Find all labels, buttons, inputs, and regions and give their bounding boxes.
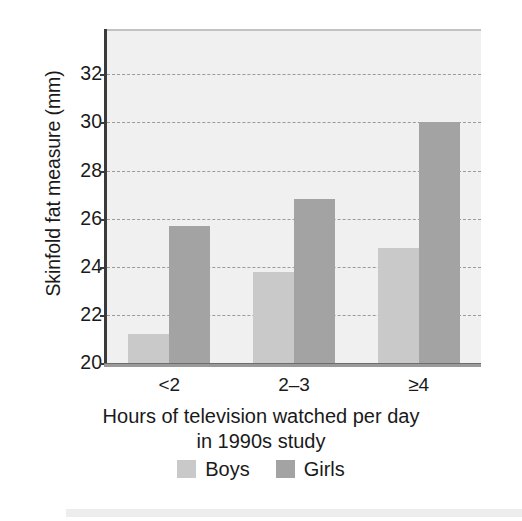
y-axis-tick-label: 30 xyxy=(58,113,102,133)
legend-label: Boys xyxy=(205,459,249,479)
y-axis-tick-label: 28 xyxy=(58,161,102,181)
legend-item-boys[interactable]: Boys xyxy=(177,459,249,479)
x-axis-category-label: ≥4 xyxy=(408,374,429,396)
bar-boys-1 xyxy=(128,334,169,363)
bar-boys-2 xyxy=(253,272,294,363)
legend-label: Girls xyxy=(304,459,345,479)
x-axis-title-line-1: Hours of television watched per day xyxy=(103,405,420,427)
y-axis-tick-label: 20 xyxy=(58,353,102,373)
y-axis-tick-label: 32 xyxy=(58,65,102,85)
y-axis-tick-label: 22 xyxy=(58,305,102,325)
page-strip xyxy=(66,509,522,517)
chart-legend: BoysGirls xyxy=(0,459,522,479)
x-axis-title: Hours of television watched per day in 1… xyxy=(0,404,522,454)
y-axis-tick-label: 26 xyxy=(58,209,102,229)
y-axis-tick-label: 24 xyxy=(58,257,102,277)
bar-girls-3 xyxy=(419,122,460,363)
y-axis-tick-labels: 20222426283032 xyxy=(58,31,102,363)
x-axis-line xyxy=(104,363,481,367)
legend-swatch-boys xyxy=(177,460,196,478)
x-axis-category-label: 2–3 xyxy=(278,374,310,396)
x-axis-category-label: <2 xyxy=(158,374,180,396)
bar-boys-3 xyxy=(378,248,419,363)
gridline xyxy=(107,74,481,75)
bar-chart-figure: Skinfold fat measure (mm) 20222426283032… xyxy=(0,0,522,521)
bar-girls-2 xyxy=(294,199,335,363)
y-axis-spine xyxy=(104,29,107,365)
legend-swatch-girls xyxy=(276,460,295,478)
x-axis-title-line-2: in 1990s study xyxy=(0,429,522,454)
bar-girls-1 xyxy=(169,226,210,363)
legend-item-girls[interactable]: Girls xyxy=(276,459,345,479)
plot-area xyxy=(107,31,481,363)
